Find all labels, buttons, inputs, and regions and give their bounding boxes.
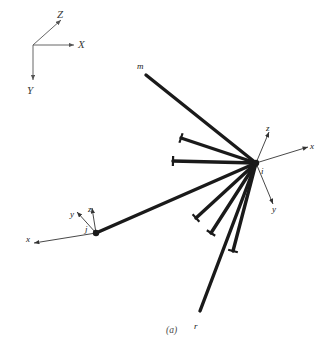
node-j-label: j bbox=[85, 225, 88, 234]
member-3 bbox=[173, 161, 256, 163]
figure-caption: (a) bbox=[166, 326, 177, 336]
node-j-local-z-label: z bbox=[88, 205, 92, 214]
node-j-local-y-label: y bbox=[70, 210, 74, 219]
node-j-local-axis-x bbox=[34, 233, 96, 243]
member-2 bbox=[181, 138, 256, 163]
member-2-end-cap bbox=[179, 133, 182, 142]
node-i-joint-dot bbox=[253, 160, 259, 166]
node-i-label: i bbox=[261, 167, 264, 176]
member-m-end-label: m bbox=[137, 62, 144, 71]
node-i-local-axis-z bbox=[256, 132, 269, 163]
global-axes-layer bbox=[33, 20, 74, 80]
node-i-local-axis-y bbox=[256, 163, 273, 204]
global-axis-x-label: X bbox=[78, 39, 85, 50]
truss-joint-diagram bbox=[0, 0, 325, 356]
members-layer bbox=[96, 75, 256, 311]
node-j-local-x-label: x bbox=[26, 235, 30, 244]
global-axis-z-label: Z bbox=[57, 9, 63, 20]
global-axis-z bbox=[33, 20, 61, 45]
global-axis-y-label: Y bbox=[27, 85, 33, 96]
node-i-local-z-label: z bbox=[266, 124, 270, 133]
figure-container: X Y Z i x y z j x y z m r (a) bbox=[0, 0, 325, 356]
member-r-end-label: r bbox=[194, 322, 198, 331]
nodes-layer bbox=[34, 132, 308, 243]
node-i-local-axis-x bbox=[256, 147, 308, 163]
node-i-local-y-label: y bbox=[272, 205, 276, 214]
member-7-end-cap bbox=[228, 250, 238, 253]
member-m bbox=[146, 75, 256, 163]
node-j-joint-dot bbox=[93, 230, 99, 236]
node-i-local-x-label: x bbox=[310, 142, 314, 151]
